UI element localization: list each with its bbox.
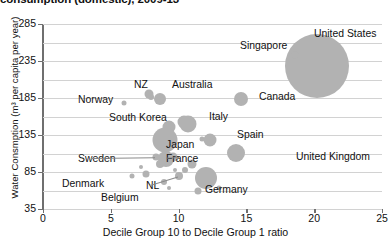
y-tick-label: 135 <box>0 128 36 140</box>
bubble-canada <box>234 92 248 106</box>
point-label: Canada <box>259 91 295 102</box>
bubble-singapore <box>292 52 299 59</box>
y-tick <box>38 61 43 62</box>
point-label: Norway <box>78 94 113 105</box>
bubble-norway <box>122 101 127 106</box>
y-tick <box>38 135 43 136</box>
bubble <box>130 173 135 178</box>
bubble-denmark <box>143 171 150 178</box>
bubble-united-states <box>285 34 349 98</box>
point-label: Singapore <box>240 40 287 51</box>
bubble-italy <box>180 115 197 132</box>
point-label: Japan <box>166 139 194 150</box>
y-tick-label: 285 <box>0 17 36 29</box>
gridline <box>43 24 382 25</box>
y-tick-label: 235 <box>0 54 36 66</box>
y-tick <box>38 24 43 25</box>
y-tick-label: 185 <box>0 91 36 103</box>
point-label: Germany <box>205 184 248 195</box>
point-label: Belgium <box>101 192 139 203</box>
point-label: France <box>166 153 198 164</box>
y-tick <box>38 172 43 173</box>
bubble <box>139 165 143 169</box>
bubble-australia <box>154 93 166 105</box>
point-label: Denmark <box>62 178 104 189</box>
bubble-united-kingdom <box>227 144 245 162</box>
point-label: NZ <box>134 79 148 90</box>
y-tick-label: 85 <box>0 165 36 177</box>
gridline <box>43 209 382 210</box>
point-label: United States <box>314 28 376 39</box>
bubble-chart: consumption (domestic), 2009-13 Water Co… <box>0 0 391 240</box>
chart-title: consumption (domestic), 2009-13 <box>0 0 391 5</box>
x-tick-label: 25 <box>376 212 388 224</box>
point-label: United Kingdom <box>296 151 370 162</box>
label-leader-line <box>91 157 155 159</box>
y-tick <box>38 98 43 99</box>
bubble-nz <box>144 90 153 99</box>
bubble-spain <box>203 134 216 147</box>
point-label: Australia <box>172 79 212 90</box>
x-tick-label: 10 <box>173 212 185 224</box>
bubble <box>167 186 171 190</box>
x-tick-label: 20 <box>308 212 320 224</box>
x-tick-label: 0 <box>40 212 46 224</box>
bubble <box>182 167 188 173</box>
point-label: South Korea <box>109 112 167 123</box>
x-axis-title: Decile Group 10 to Decile Group 1 ratio <box>0 226 391 238</box>
bubble <box>173 168 177 172</box>
point-label: Italy <box>209 111 228 122</box>
x-tick-label: 5 <box>108 212 114 224</box>
y-tick-label: 35 <box>0 202 36 214</box>
bubble <box>194 188 201 195</box>
point-label: Spain <box>237 129 264 140</box>
x-tick-label: 15 <box>241 212 253 224</box>
